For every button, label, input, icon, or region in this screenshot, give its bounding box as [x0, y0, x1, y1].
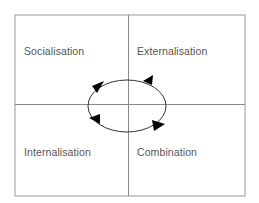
quadrant-label-combination: Combination	[137, 146, 197, 158]
arrowhead-top-left-icon	[92, 81, 104, 93]
quadrant-label-externalisation: Externalisation	[137, 45, 207, 57]
quadrant-label-socialisation: Socialisation	[24, 45, 84, 57]
seci-diagram	[0, 0, 259, 203]
outer-frame	[15, 15, 245, 196]
quadrant-label-internalisation: Internalisation	[24, 146, 91, 158]
